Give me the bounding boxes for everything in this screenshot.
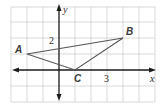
arrow-up-icon [57,4,62,11]
y-axis-label: y [62,4,68,15]
x-axis-label: x [149,73,155,84]
x-axis [12,68,156,73]
y-axis [57,4,62,101]
arrow-down-icon [57,94,62,101]
vertex-label-b: B [126,26,133,37]
grid [11,7,155,102]
coordinate-plane: y x 2 3 A B C [0,0,167,105]
arrow-left-icon [12,68,19,73]
vertex-label-a: A [14,44,22,55]
tick-label-x-3: 3 [104,73,109,84]
tick-label-y-2: 2 [49,35,54,46]
vertex-label-c: C [74,73,82,84]
